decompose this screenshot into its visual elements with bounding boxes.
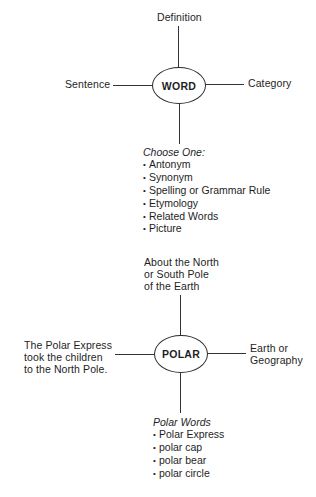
polar-top-label: About the North or South Pole of the Ear… xyxy=(144,257,219,292)
word-center-node: WORD xyxy=(152,67,206,104)
polar-center-label: POLAR xyxy=(162,348,200,360)
polar-left-line-3: to the North Pole. xyxy=(24,364,112,376)
polar-top-line-2: or South Pole xyxy=(144,269,219,281)
list-item: Polar Express xyxy=(153,429,224,442)
list-item: polar circle xyxy=(153,468,224,481)
word-center-label: WORD xyxy=(162,80,196,92)
polar-words-list: Polar Words Polar Express polar cap pola… xyxy=(153,417,224,481)
list-item: polar cap xyxy=(153,442,224,455)
polar-left-label: The Polar Express took the children to t… xyxy=(24,340,112,375)
polar-right-connector xyxy=(207,353,246,354)
word-top-connector xyxy=(178,26,179,67)
list-item: polar bear xyxy=(153,455,224,468)
word-right-label: Category xyxy=(248,78,291,90)
list-item: Antonym xyxy=(143,159,270,172)
list-item: Etymology xyxy=(143,198,270,211)
word-left-label: Sentence xyxy=(65,79,110,91)
polar-top-line-3: of the Earth xyxy=(144,281,219,293)
word-choose-list: Choose One: Antonym Synonym Spelling or … xyxy=(143,147,270,236)
word-right-connector xyxy=(205,84,244,85)
list-item: Synonym xyxy=(143,172,270,185)
polar-left-line-2: took the children xyxy=(24,352,112,364)
polar-center-node: POLAR xyxy=(154,335,208,373)
polar-right-label: Earth or Geography xyxy=(250,343,303,367)
polar-left-connector xyxy=(115,354,155,355)
polar-top-connector xyxy=(180,295,181,336)
word-bottom-connector xyxy=(179,103,180,144)
list-item: Spelling or Grammar Rule xyxy=(143,185,270,198)
list-item: Picture xyxy=(143,223,270,236)
word-left-connector xyxy=(113,85,153,86)
word-top-label: Definition xyxy=(157,12,202,24)
polar-right-line-2: Geography xyxy=(250,355,303,367)
polar-bottom-connector xyxy=(180,372,181,413)
